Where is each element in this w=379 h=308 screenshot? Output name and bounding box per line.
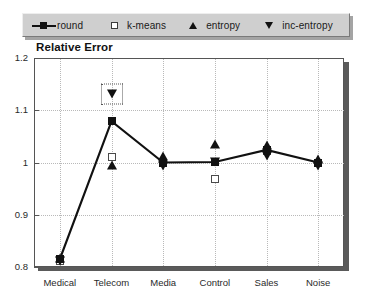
x-axis-tick-label: Noise	[286, 277, 350, 288]
y-axis-tick-label: 1	[2, 157, 28, 168]
gridline-horizontal	[34, 110, 344, 112]
data-point-round-medical[interactable]	[56, 255, 64, 263]
y-tick-mark	[34, 215, 39, 216]
gridline-vertical	[60, 59, 62, 266]
y-axis-tick-label: 1.1	[2, 104, 28, 115]
selected-point-marquee[interactable]	[101, 84, 123, 105]
data-point-entropy-control[interactable]	[210, 140, 220, 149]
data-point-k-means-control[interactable]	[211, 175, 219, 183]
data-point-round-telecom[interactable]	[108, 117, 116, 125]
y-axis-tick-label: 1.2	[2, 52, 28, 63]
data-point-entropy-telecom[interactable]	[107, 160, 117, 169]
y-axis-tick-label: 0.8	[2, 261, 28, 272]
chart-plot-area: 0.80.911.11.2MedicalTelecomMediaControlS…	[0, 0, 379, 308]
data-point-round-control[interactable]	[211, 158, 219, 166]
gridline-horizontal	[34, 163, 344, 165]
y-tick-mark	[34, 163, 39, 164]
y-axis-tick-label: 0.9	[2, 209, 28, 220]
y-tick-mark	[34, 58, 39, 59]
y-tick-mark	[34, 110, 39, 111]
data-point-round-noise[interactable]	[314, 159, 322, 167]
gridline-horizontal	[34, 215, 344, 217]
data-point-round-sales[interactable]	[263, 146, 271, 154]
y-tick-mark	[34, 267, 39, 268]
data-point-round-media[interactable]	[159, 159, 167, 167]
plot-shadow-right	[344, 62, 349, 271]
gridline-vertical	[267, 59, 269, 266]
